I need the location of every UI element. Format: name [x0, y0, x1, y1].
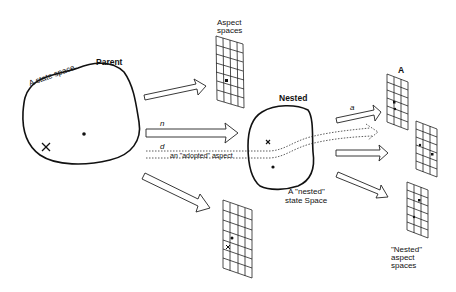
adopted-aspect-label: an "adopted" aspect	[170, 152, 233, 160]
x-marker-icon	[226, 245, 230, 249]
parent-state-space: A state space Parent	[23, 57, 140, 164]
arrow-to-nested-aspect-middle	[336, 145, 388, 161]
nested-caption-1: A "nested"	[288, 187, 325, 196]
nested-title: Nested	[279, 93, 307, 103]
grid-marker-icon	[431, 153, 434, 156]
aspect-space-bottom	[223, 200, 252, 278]
arrow-to-aspect-top	[144, 79, 206, 100]
dot-marker-icon	[413, 216, 415, 218]
dot-marker-icon	[419, 144, 421, 146]
nested-aspects-caption-3: spaces	[391, 261, 416, 270]
dot-marker-icon	[231, 237, 234, 240]
grid-marker-icon	[418, 199, 421, 202]
arrow-d-label: d	[160, 142, 165, 151]
nested-caption-2: state Space	[285, 196, 328, 205]
nested-state-space: Nested A "nested" state Space	[248, 93, 328, 205]
dot-marker-icon	[394, 108, 396, 110]
aspect-grid-bottom	[223, 200, 252, 278]
nested-aspect-space-bottom: "Nested" aspect spaces	[391, 182, 428, 270]
nested-blob	[248, 106, 314, 190]
dot-marker-icon	[82, 132, 86, 136]
parent-caption: A state space	[28, 63, 77, 88]
arrow-a-label: a	[350, 103, 355, 112]
arrow-n: n	[146, 119, 238, 143]
arrow-to-aspect-bottom	[142, 173, 210, 212]
grid-marker-icon	[393, 101, 396, 104]
aspect-grid-top	[216, 36, 244, 108]
aspect-space-top: Aspect spaces	[216, 18, 244, 108]
dot-marker-icon	[271, 165, 274, 168]
nested-state-space-diagram: A state space Parent Aspect spaces n	[0, 0, 456, 292]
aspect-spaces-label-2: spaces	[217, 26, 242, 35]
x-marker-icon	[266, 140, 270, 144]
arrow-n-label: n	[160, 119, 165, 128]
arrow-to-nested-aspect-bottom	[336, 172, 388, 198]
nested-aspect-space-a: A	[387, 65, 408, 130]
nested-aspect-a-label: A	[398, 65, 404, 75]
grid-marker-icon	[225, 79, 228, 82]
nested-aspect-space-middle	[416, 121, 437, 177]
parent-title: Parent	[96, 57, 123, 67]
arrow-a: a	[336, 103, 381, 123]
x-marker-icon	[42, 143, 50, 151]
